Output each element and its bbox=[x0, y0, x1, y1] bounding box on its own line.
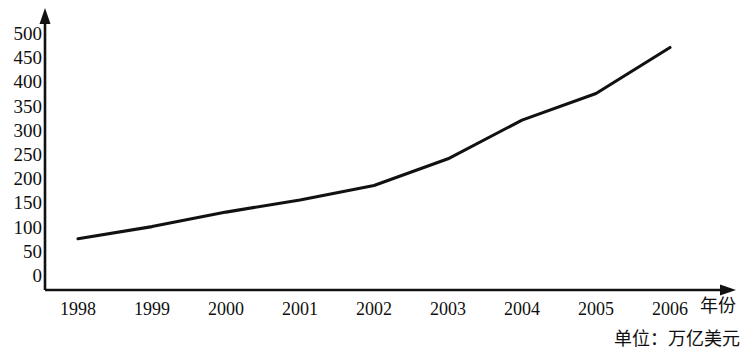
y-tick-label: 0 bbox=[0, 266, 42, 285]
data-series-line bbox=[78, 48, 670, 239]
y-tick-label: 250 bbox=[0, 145, 42, 164]
x-tick-label: 2001 bbox=[265, 300, 335, 318]
y-tick-label: 200 bbox=[0, 169, 42, 188]
y-tick-label: 450 bbox=[0, 48, 42, 67]
y-tick-label: 350 bbox=[0, 97, 42, 116]
x-tick-label: 2003 bbox=[413, 300, 483, 318]
y-tick-label: 400 bbox=[0, 72, 42, 91]
y-tick-label: 100 bbox=[0, 218, 42, 237]
x-tick-label: 1999 bbox=[117, 300, 187, 318]
x-axis-title: 年份 bbox=[700, 297, 736, 315]
x-tick-label: 2004 bbox=[487, 300, 557, 318]
x-tick-label: 2006 bbox=[635, 300, 705, 318]
y-tick-label: 300 bbox=[0, 121, 42, 140]
unit-note: 单位：万亿美元 bbox=[614, 330, 740, 348]
y-tick-label: 50 bbox=[0, 242, 42, 261]
x-tick-label: 1998 bbox=[43, 300, 113, 318]
y-tick-label: 500 bbox=[0, 24, 42, 43]
y-tick-label: 150 bbox=[0, 193, 42, 212]
x-axis bbox=[45, 285, 736, 296]
line-chart: 050100150200250300350400450500 199819992… bbox=[0, 0, 750, 353]
x-tick-label: 2000 bbox=[191, 300, 261, 318]
x-tick-label: 2005 bbox=[561, 300, 631, 318]
x-tick-label: 2002 bbox=[339, 300, 409, 318]
